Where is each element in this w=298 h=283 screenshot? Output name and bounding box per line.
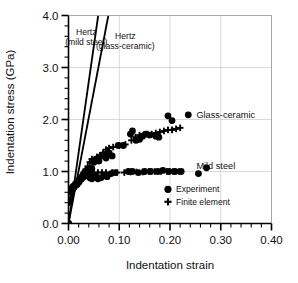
legend-marker-circle	[164, 186, 171, 193]
data-point-circle	[109, 153, 116, 160]
mild-steel-label: Mild steel	[196, 161, 235, 171]
x-tick-label: 0.00	[57, 234, 79, 246]
indentation-stress-strain-chart: Indentation stress (GPa) Indentation str…	[0, 0, 298, 283]
data-point-circle	[195, 170, 202, 177]
data-point-circle	[169, 117, 176, 124]
plot-area: 0.01.02.03.04.00.000.100.200.300.40Hertz…	[0, 0, 298, 283]
y-tick-label: 2.0	[43, 114, 59, 126]
y-tick-label: 1.0	[43, 166, 59, 178]
y-tick-label: 3.0	[43, 62, 59, 74]
y-tick-label: 0.0	[43, 218, 59, 230]
x-tick-label: 0.30	[210, 234, 232, 246]
data-point-circle	[185, 111, 192, 118]
x-tick-label: 0.40	[260, 234, 282, 246]
data-point-circle	[129, 128, 136, 135]
y-tick-label: 4.0	[43, 10, 59, 22]
x-tick-label: 0.10	[108, 234, 130, 246]
glass-ceramic-label: Glass-ceramic	[196, 110, 255, 120]
legend-label: Finite element	[176, 197, 231, 207]
legend-label: Experiment	[176, 184, 220, 194]
x-tick-label: 0.20	[159, 234, 181, 246]
